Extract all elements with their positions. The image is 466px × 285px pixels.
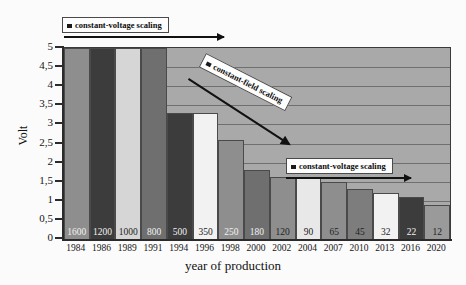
annotation-constant-voltage-top: constant-voltage scaling [62, 17, 169, 33]
y-axis-tick [55, 46, 62, 48]
plot-area: 1600120010008005003502501801209065453222… [63, 47, 451, 240]
bar: 32 [373, 193, 399, 239]
y-axis-tick-label: 1,5 [8, 175, 53, 186]
y-axis-tick [55, 180, 62, 182]
bar-value-label: 1000 [116, 227, 140, 237]
x-axis-tick-label: 2004 [295, 243, 321, 253]
x-axis-tick-label: 2016 [398, 243, 424, 253]
bar-value-label: 45 [348, 227, 372, 237]
bar: 1200 [90, 48, 116, 239]
y-axis-tick [55, 84, 62, 86]
x-axis-tick-label: 2020 [423, 243, 449, 253]
bar: 65 [321, 182, 347, 239]
bar: 1600 [64, 48, 90, 239]
x-axis-tick-label: 2000 [243, 243, 269, 253]
y-axis-tick-label: 5 [8, 41, 53, 52]
bar: 22 [399, 197, 425, 239]
annotation-constant-voltage-bottom: constant-voltage scaling [286, 158, 393, 174]
y-axis-tick [55, 161, 62, 163]
bar: 120 [270, 177, 296, 239]
y-axis-line [62, 46, 64, 241]
bar-value-label: 250 [219, 227, 243, 237]
x-axis-tick-label: 2013 [372, 243, 398, 253]
bar: 90 [296, 177, 322, 239]
bar-value-label: 22 [400, 227, 424, 237]
bar-value-label: 350 [194, 227, 218, 237]
bar-value-label: 1200 [91, 227, 115, 237]
x-axis-tick-label: 1998 [217, 243, 243, 253]
y-axis-tick-label: 4,5 [8, 60, 53, 71]
y-axis-tick [55, 122, 62, 124]
x-axis-tick-label: 2007 [320, 243, 346, 253]
y-axis-tick [55, 218, 62, 220]
bar-value-label: 180 [245, 227, 269, 237]
x-axis-line [62, 239, 452, 241]
bar-value-label: 32 [374, 227, 398, 237]
y-axis-tick [55, 142, 62, 144]
bar-value-label: 800 [142, 227, 166, 237]
bar-value-label: 65 [322, 227, 346, 237]
bar: 250 [218, 140, 244, 239]
bar: 12 [424, 205, 450, 239]
annotation-top-label: constant-voltage scaling [75, 20, 162, 30]
bar: 500 [167, 113, 193, 239]
legend-marker-icon [205, 62, 211, 68]
x-axis-tick-label: 1991 [140, 243, 166, 253]
annotation-constant-field: constant-field scaling [199, 53, 292, 111]
annotation-top-arrow-icon [64, 36, 224, 38]
x-axis-tick-label: 1984 [63, 243, 89, 253]
x-axis-tick-label: 1994 [166, 243, 192, 253]
y-axis-tick [55, 199, 62, 201]
bar-value-label: 500 [168, 227, 192, 237]
x-axis-title: year of production [0, 258, 466, 274]
y-axis-tick-label: 0 [8, 232, 53, 243]
y-axis-title: Volt [16, 106, 31, 166]
x-axis-tick-label: 1996 [192, 243, 218, 253]
annotation-bottom-arrow-icon [286, 177, 411, 179]
y-axis-tick-label: 0,5 [8, 213, 53, 224]
bar: 800 [141, 48, 167, 239]
bar: 180 [244, 170, 270, 239]
annotation-field-label: constant-field scaling [212, 62, 285, 106]
legend-marker-icon [291, 165, 296, 169]
y-axis-tick [55, 65, 62, 67]
bar-value-label: 1600 [65, 227, 89, 237]
bar-value-label: 12 [425, 227, 449, 237]
annotation-bottom-label: constant-voltage scaling [299, 161, 386, 171]
x-axis-tick-label: 1989 [114, 243, 140, 253]
bar-value-label: 90 [297, 227, 321, 237]
x-axis-tick-label: 1986 [89, 243, 115, 253]
bar: 45 [347, 189, 373, 239]
y-axis-tick-label: 4 [8, 79, 53, 90]
y-axis-tick [55, 237, 62, 239]
x-axis-tick-label: 2002 [269, 243, 295, 253]
y-axis-tick-label: 1 [8, 194, 53, 205]
bar-value-label: 120 [271, 227, 295, 237]
bar: 1000 [115, 48, 141, 239]
legend-marker-icon [67, 24, 72, 28]
bar: 350 [193, 113, 219, 239]
y-axis-tick [55, 103, 62, 105]
x-axis-tick-label: 2010 [346, 243, 372, 253]
